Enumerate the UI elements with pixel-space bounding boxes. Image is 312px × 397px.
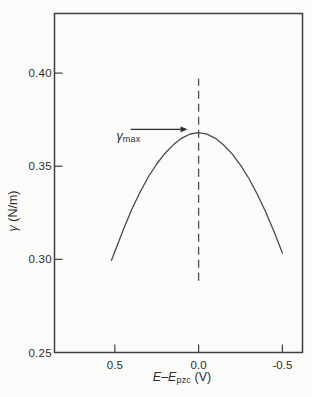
gamma-max-subscript: max bbox=[123, 134, 141, 144]
gamma-symbol: γ bbox=[6, 225, 20, 231]
x-axis-symbol: E–E bbox=[153, 370, 177, 384]
electrocapillary-figure: 0.40 0.35 0.30 0.25 0.5 0.0 -0.5 γ (N/m)… bbox=[0, 0, 312, 397]
chart-canvas bbox=[0, 0, 312, 397]
y-tick-label-035: 0.35 bbox=[8, 159, 52, 173]
electrocapillary-curve bbox=[112, 133, 283, 261]
x-axis-units: (V) bbox=[191, 370, 211, 384]
x-axis-title: E–Epzc (V) bbox=[132, 370, 232, 388]
plot-border bbox=[55, 14, 303, 353]
x-tick-label-neg05: -0.5 bbox=[262, 358, 302, 372]
gamma-max-label: γmax bbox=[117, 130, 141, 146]
y-tick-label-025: 0.25 bbox=[8, 346, 52, 360]
y-axis-units: (N/m) bbox=[6, 191, 20, 226]
gamma-max-arrowhead bbox=[181, 127, 188, 133]
x-tick-label-pos05: 0.5 bbox=[95, 358, 135, 372]
y-tick-label-040: 0.40 bbox=[8, 66, 52, 80]
y-tick-label-030: 0.30 bbox=[8, 252, 52, 266]
pzc-subscript: pzc bbox=[176, 375, 191, 385]
